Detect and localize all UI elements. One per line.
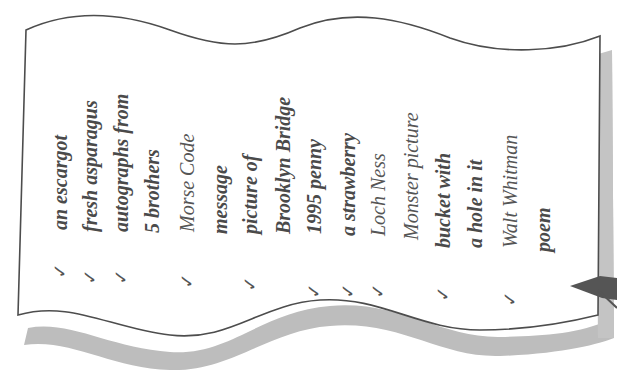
list-item: picture of xyxy=(240,155,260,234)
list-item: 5 brothers xyxy=(142,149,162,233)
check-mark-icon: ✓ xyxy=(305,283,323,298)
list-item: autographs from xyxy=(111,94,131,232)
list-item: Morse Code xyxy=(177,134,197,232)
list-item: Monster picture xyxy=(401,112,421,240)
check-mark-icon: ✓ xyxy=(369,283,387,298)
check-mark-icon: ✓ xyxy=(81,269,99,284)
check-mark-icon: ✓ xyxy=(51,263,69,278)
list-item: Walt Whitman xyxy=(500,135,520,248)
check-mark-icon: ✓ xyxy=(339,283,357,298)
list-item: Loch Ness xyxy=(368,153,388,236)
list-item: 1995 penny xyxy=(304,139,324,234)
check-mark-icon: ✓ xyxy=(112,269,130,284)
list-item: a strawberry xyxy=(338,133,358,236)
check-mark-icon: ✓ xyxy=(501,291,519,306)
list-item: fresh asparagus xyxy=(80,100,100,232)
list-item: bucket with xyxy=(433,153,453,248)
list-item: Brooklyn Bridge xyxy=(273,97,293,234)
list-item: an escargot xyxy=(50,135,70,230)
check-mark-icon: ✓ xyxy=(178,273,196,288)
list-item: a hole in it xyxy=(465,160,485,248)
list-item: poem xyxy=(533,208,553,252)
check-mark-icon: ✓ xyxy=(434,286,452,301)
check-mark-icon: ✓ xyxy=(241,276,259,291)
list-item: message xyxy=(210,165,230,234)
